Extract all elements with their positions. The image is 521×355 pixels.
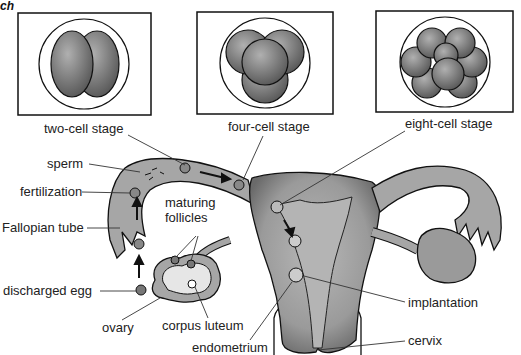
four-cell-embryo: [234, 180, 244, 190]
label-discharged-egg: discharged egg: [3, 283, 92, 298]
follicle: [171, 256, 179, 264]
egg-in-tube: [134, 239, 144, 249]
label-follicles: follicles: [165, 210, 208, 225]
human-fertilization-diagram: ch two-cell stage four-cell stage eight-…: [0, 0, 521, 355]
eight-cell-stage-panel: [376, 11, 513, 112]
eight-cell-embryo: [271, 201, 283, 213]
label-fallopian-tube: Fallopian tube: [2, 220, 84, 235]
label-corpus-luteum: corpus luteum: [162, 318, 244, 333]
corpus-luteum: [188, 280, 196, 288]
label-sperm: sperm: [47, 156, 83, 171]
two-cell-stage-panel: [18, 13, 151, 115]
corner-text: ch: [0, 0, 14, 13]
label-implantation: implantation: [408, 295, 478, 310]
four-cell-stage-panel: [197, 12, 333, 114]
label-maturing: maturing: [165, 195, 216, 210]
label-fertilization: fertilization: [20, 184, 82, 199]
discharged-egg: [136, 285, 146, 295]
label-endometrium: endometrium: [192, 340, 268, 355]
implanting-embryo: [289, 268, 303, 282]
follicle: [187, 260, 195, 268]
blastocyst: [289, 235, 301, 247]
fertilized-egg: [130, 188, 140, 198]
ovary-right: [417, 228, 475, 282]
label-two-cell-stage: two-cell stage: [44, 121, 123, 136]
label-eight-cell-stage: eight-cell stage: [405, 116, 492, 131]
label-four-cell-stage: four-cell stage: [228, 119, 310, 134]
label-cervix: cervix: [408, 333, 442, 348]
label-ovary: ovary: [102, 320, 134, 335]
